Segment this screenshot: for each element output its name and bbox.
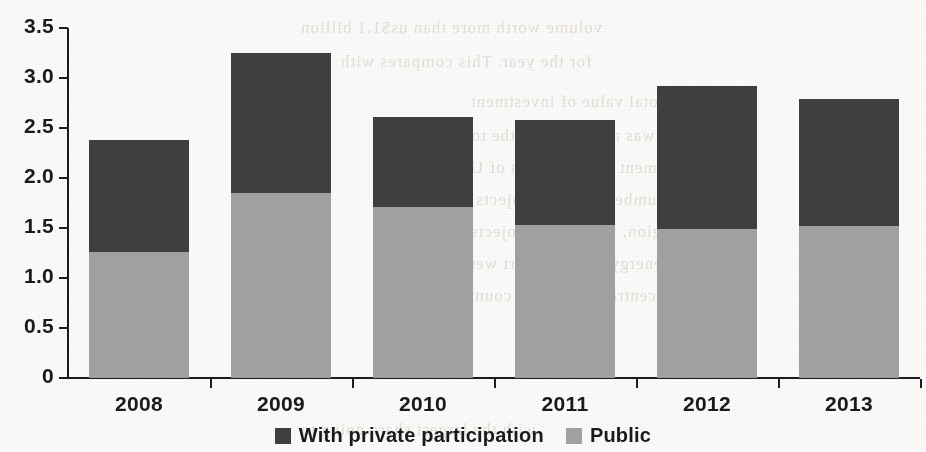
plot-area: [68, 28, 920, 378]
y-axis-label: 3.0: [0, 64, 54, 88]
y-axis-label: 1.5: [0, 214, 54, 238]
y-axis-tick: [59, 27, 68, 29]
bar-segment-public-2008: [89, 252, 189, 378]
bar-2010: [373, 117, 473, 378]
x-axis-tick: [920, 379, 922, 388]
legend-label: With private participation: [299, 424, 544, 447]
y-axis-label: 0: [0, 364, 54, 388]
x-axis-tick: [778, 379, 780, 388]
bar-segment-public-2010: [373, 207, 473, 378]
bar-2009: [231, 53, 331, 378]
x-axis-label-2010: 2010: [363, 392, 483, 416]
y-axis-tick: [59, 327, 68, 329]
bar-segment-public-2009: [231, 193, 331, 378]
bar-segment-public-2012: [657, 229, 757, 378]
legend-swatch-icon: [566, 428, 582, 444]
legend-item: With private participation: [275, 424, 544, 447]
y-axis-label: 3.5: [0, 14, 54, 38]
y-axis-tick: [59, 227, 68, 229]
y-axis-label: 2.0: [0, 164, 54, 188]
y-axis-tick: [59, 127, 68, 129]
y-axis-tick: [59, 177, 68, 179]
legend-label: Public: [590, 424, 651, 447]
y-axis-tick: [59, 77, 68, 79]
y-axis-tick: [59, 277, 68, 279]
bar-segment-public-2011: [515, 225, 615, 378]
bar-segment-with-private-participation-2008: [89, 140, 189, 252]
x-axis-tick: [352, 379, 354, 388]
x-axis-tick: [494, 379, 496, 388]
legend-item: Public: [566, 424, 651, 447]
x-axis-label-2008: 2008: [79, 392, 199, 416]
x-axis-tick: [210, 379, 212, 388]
x-axis-label-2011: 2011: [505, 392, 625, 416]
bar-2011: [515, 120, 615, 378]
bar-segment-with-private-participation-2009: [231, 53, 331, 193]
x-axis-tick: [636, 379, 638, 388]
chart-legend: With private participationPublic: [0, 424, 926, 447]
bar-2012: [657, 86, 757, 378]
y-axis-tick: [59, 377, 68, 379]
y-axis-label: 1.0: [0, 264, 54, 288]
bar-2013: [799, 99, 899, 378]
legend-swatch-icon: [275, 428, 291, 444]
y-axis-label: 2.5: [0, 114, 54, 138]
x-axis-label-2013: 2013: [789, 392, 909, 416]
x-axis-label-2009: 2009: [221, 392, 341, 416]
bar-segment-with-private-participation-2013: [799, 99, 899, 226]
x-axis-label-2012: 2012: [647, 392, 767, 416]
y-axis-label: 0.5: [0, 314, 54, 338]
bar-2008: [89, 140, 189, 378]
bar-segment-with-private-participation-2011: [515, 120, 615, 225]
bar-segment-public-2013: [799, 226, 899, 378]
bar-segment-with-private-participation-2012: [657, 86, 757, 229]
stacked-bar-chart: 00.51.01.52.02.53.03.5 20082009201020112…: [0, 0, 926, 452]
bar-segment-with-private-participation-2010: [373, 117, 473, 207]
